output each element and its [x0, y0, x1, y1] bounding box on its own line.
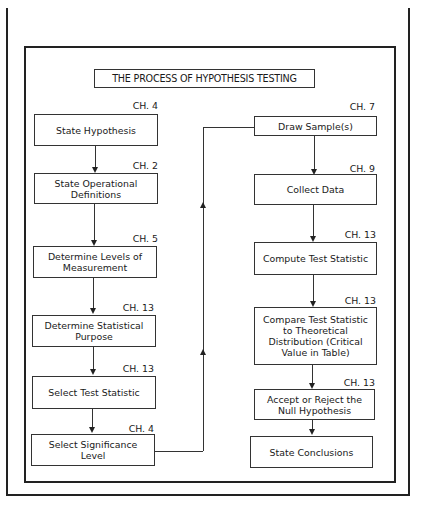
chapter-label: CH. 9: [340, 163, 375, 174]
step-state-hypothesis: State Hypothesis: [34, 114, 158, 146]
chapter-label: CH. 13: [112, 363, 154, 374]
connector-line: [203, 127, 254, 128]
step-accept-or-reject-null: Accept or Reject the Null Hypothesis: [254, 389, 375, 420]
chapter-label: CH. 7: [340, 101, 375, 112]
chapter-label: CH. 2: [118, 160, 158, 171]
arrow-down-icon: [89, 427, 95, 433]
chapter-label: CH. 13: [334, 295, 376, 306]
connector-line: [155, 451, 203, 452]
chapter-label: CH. 13: [334, 229, 376, 240]
chapter-label: CH. 4: [118, 100, 158, 111]
connector-line: [93, 347, 94, 369]
connector-line: [313, 275, 314, 301]
step-determine-levels-of-measurement: Determine Levels of Measurement: [33, 246, 157, 278]
diagram-title: THE PROCESS OF HYPOTHESIS TESTING: [94, 69, 315, 88]
arrow-down-icon: [90, 369, 96, 375]
connector-line: [203, 127, 204, 451]
connector-line: [314, 136, 315, 169]
step-select-test-statistic: Select Test Statistic: [32, 376, 156, 409]
step-collect-data: Collect Data: [254, 174, 377, 205]
arrow-up-icon: [200, 202, 206, 208]
connector-line: [92, 409, 93, 427]
connector-line: [312, 365, 313, 383]
step-state-operational-definitions: State Operational Definitions: [34, 173, 158, 204]
step-determine-statistical-purpose: Determine Statistical Purpose: [32, 315, 156, 347]
connector-line: [93, 278, 94, 308]
chapter-label: CH. 13: [333, 377, 375, 388]
arrow-up-icon: [200, 349, 206, 355]
step-select-significance-level: Select Significance Level: [31, 434, 155, 466]
chapter-label: CH. 13: [112, 302, 154, 313]
chapter-label: CH. 5: [118, 233, 158, 244]
step-compute-test-statistic: Compute Test Statistic: [254, 242, 377, 275]
connector-line: [94, 204, 95, 240]
connector-line: [95, 146, 96, 167]
arrow-down-icon: [309, 429, 315, 435]
arrow-down-icon: [90, 308, 96, 314]
step-compare-test-statistic: Compare Test Statistic to Theoretical Di…: [254, 307, 377, 365]
step-draw-samples: Draw Sample(s): [254, 116, 377, 136]
chapter-label: CH. 4: [112, 423, 154, 434]
step-state-conclusions: State Conclusions: [250, 436, 373, 468]
connector-line: [313, 205, 314, 236]
